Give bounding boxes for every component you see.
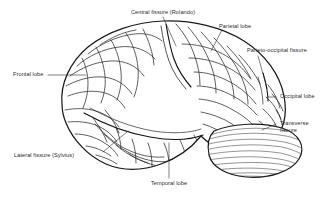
label-transverse-fissure-line1: Transverse [280, 120, 309, 126]
label-temporal-lobe: Temporal lobe [134, 180, 204, 186]
label-parietal-lobe: Parietal lobe [219, 23, 251, 29]
label-occipital-lobe: Occipital lobe [280, 93, 315, 99]
label-central-fissure: Central fissure (Rolando) [104, 9, 222, 15]
brain-diagram-figure: Central fissure (Rolando) Parietal lobe … [0, 0, 336, 197]
label-parieto-occipital-fissure: Parieto-occipital fissure [247, 47, 307, 53]
label-lateral-fissure: Lateral fissure (Sylvius) [14, 152, 74, 158]
label-frontal-lobe: Frontal lobe [13, 71, 44, 77]
label-transverse-fissure-line2: fissure [280, 127, 297, 133]
